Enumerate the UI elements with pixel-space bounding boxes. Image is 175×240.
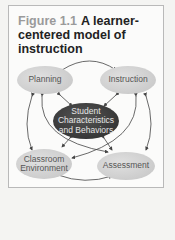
- node-instruction: Instruction: [100, 66, 156, 94]
- node-student-characteristics: Student Characteristics and Behaviors: [53, 103, 119, 139]
- node-instruction-label: Instruction: [108, 75, 147, 85]
- node-planning: Planning: [17, 66, 73, 94]
- classroom-label-2: Environment: [20, 164, 68, 174]
- node-classroom-environment: Classroom Environment: [16, 149, 72, 179]
- node-assessment: Assessment: [97, 152, 155, 180]
- node-planning-label: Planning: [28, 75, 61, 85]
- node-assessment-label: Assessment: [103, 161, 149, 171]
- center-label-3: and Behaviors: [59, 126, 113, 136]
